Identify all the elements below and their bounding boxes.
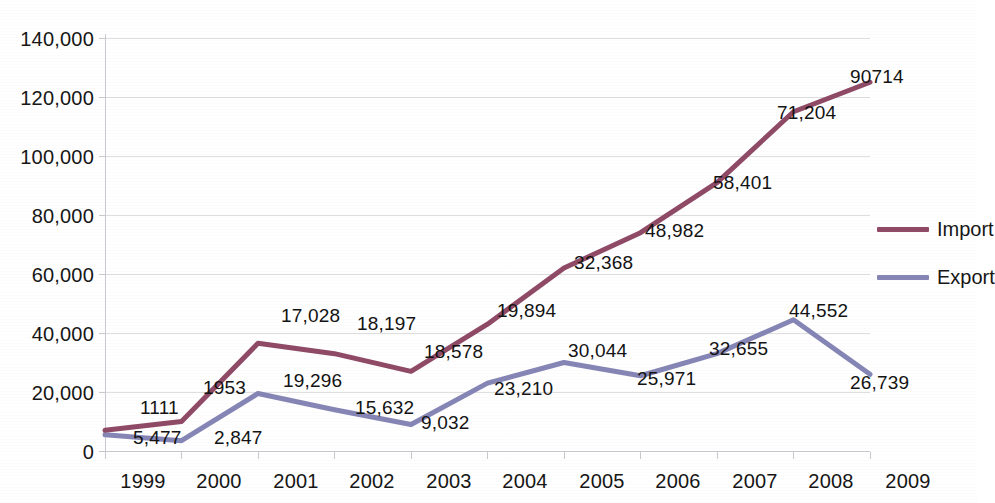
data-label-export: 5,477: [133, 427, 182, 449]
data-label-import: 71,204: [777, 102, 836, 124]
legend-swatch-export: [877, 275, 929, 280]
data-label-import: 90714: [850, 66, 904, 88]
data-label-export: 2,847: [214, 427, 263, 449]
data-label-export: 32,655: [709, 338, 768, 360]
data-label-import: 18,578: [424, 341, 483, 363]
legend-swatch-import: [877, 227, 929, 232]
data-label-import: 18,197: [357, 313, 416, 335]
data-label-export: 25,971: [637, 368, 696, 390]
data-label-export: 30,044: [568, 340, 627, 362]
data-label-export: 15,632: [355, 397, 414, 419]
data-label-import: 32,368: [574, 252, 633, 274]
data-label-export: 23,210: [494, 378, 553, 400]
chart-legend: Import Export: [877, 218, 977, 298]
data-label-export: 26,739: [850, 372, 909, 394]
data-label-import: 1953: [203, 377, 246, 399]
data-label-import: 48,982: [645, 220, 704, 242]
legend-item-export[interactable]: Export: [877, 266, 995, 289]
data-label-export: 9,032: [421, 412, 470, 434]
data-label-import: 1111: [140, 397, 179, 419]
data-label-export: 44,552: [789, 300, 848, 322]
data-label-import: 58,401: [713, 172, 772, 194]
legend-label-import: Import: [937, 218, 994, 241]
legend-label-export: Export: [937, 266, 995, 289]
data-label-import: 17,028: [281, 305, 340, 327]
legend-item-import[interactable]: Import: [877, 218, 994, 241]
data-label-export: 19,296: [283, 370, 342, 392]
data-label-import: 19,894: [497, 300, 556, 322]
